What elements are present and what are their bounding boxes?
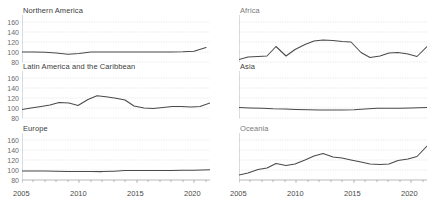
plot-area-africa (239, 15, 427, 67)
y-tick-label-100-northern-america: 100 (0, 49, 19, 56)
svg-northern-america (22, 15, 210, 67)
x-tick-label-2015-oceania: 2015 (344, 190, 361, 198)
panel-europe: Europe 160 140 120 100 80 (0, 124, 218, 198)
y-tick-label-160-northern-america: 160 (0, 19, 19, 26)
x-tick-label-2020-europe: 2020 (184, 190, 201, 198)
y-tick-label-80-europe: 80 (0, 177, 19, 184)
panel-title-oceania: Oceania (240, 124, 269, 133)
panel-oceania: Oceania (225, 124, 436, 198)
y-tick-label-100-latin-america: 100 (0, 105, 19, 112)
plot-area-northern-america (22, 15, 210, 67)
panel-asia: Asia (225, 62, 436, 120)
plot-area-europe (22, 133, 210, 193)
panel-title-africa: Africa (240, 6, 260, 15)
y-tick-label-120-northern-america: 120 (0, 39, 19, 46)
y-tick-label-160-europe: 160 (0, 137, 19, 144)
y-tick-label-80-latin-america: 80 (0, 115, 19, 122)
x-tick-label-2020-oceania: 2020 (401, 190, 418, 198)
svg-latin-america (22, 71, 210, 123)
small-multiples-chart: Northern America 160 140 120 100 80 Afri… (0, 0, 436, 198)
y-tick-label-120-latin-america: 120 (0, 95, 19, 102)
series-line-oceania (239, 146, 427, 175)
panel-title-europe: Europe (23, 124, 48, 133)
x-tick-label-2015-europe: 2015 (127, 190, 144, 198)
svg-europe (22, 133, 210, 193)
svg-asia (239, 71, 427, 123)
svg-oceania (239, 133, 427, 193)
svg-africa (239, 15, 427, 67)
y-tick-label-140-northern-america: 140 (0, 29, 19, 36)
x-tick-label-2010-oceania: 2010 (287, 190, 304, 198)
series-line-northern-america (22, 48, 206, 55)
y-tick-label-140-latin-america: 140 (0, 85, 19, 92)
y-tick-label-120-europe: 120 (0, 157, 19, 164)
panel-title-asia: Asia (240, 62, 255, 71)
y-tick-label-160-latin-america: 160 (0, 75, 19, 82)
plot-area-latin-america (22, 71, 210, 123)
y-tick-label-100-europe: 100 (0, 167, 19, 174)
x-tick-label-2005-europe: 2005 (13, 190, 30, 198)
panel-title-latin-america: Latin America and the Caribbean (23, 62, 135, 71)
y-tick-label-140-europe: 140 (0, 147, 19, 154)
series-line-latin-america (22, 96, 210, 110)
panel-title-northern-america: Northern America (23, 6, 83, 15)
panel-latin-america: Latin America and the Caribbean 160 140 … (0, 62, 218, 120)
x-tick-label-2010-europe: 2010 (70, 190, 87, 198)
plot-area-oceania (239, 133, 427, 193)
panel-northern-america: Northern America 160 140 120 100 80 (0, 6, 218, 64)
panel-africa: Africa (225, 6, 436, 64)
plot-area-asia (239, 71, 427, 123)
series-line-africa (239, 40, 427, 60)
x-tick-label-2005-oceania: 2005 (230, 190, 247, 198)
